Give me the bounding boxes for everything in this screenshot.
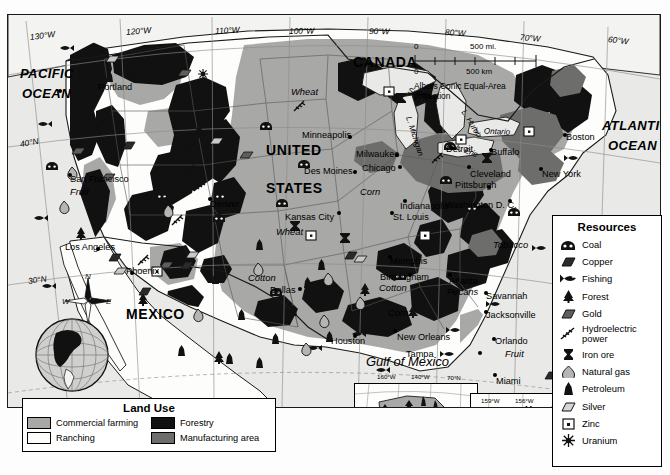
city-dot-pittsburgh (487, 185, 491, 189)
city-dot-boston (563, 133, 567, 137)
graticule-label-3: 100°W (289, 27, 314, 36)
uranium-icon (560, 433, 577, 448)
ocean-label-3: OCEAN (608, 139, 657, 152)
city-label-st-louis: St. Louis (393, 213, 429, 222)
city-label-los-angeles: Los Angeles (65, 243, 115, 252)
landuse-legend-label: Ranching (56, 433, 95, 443)
alaska-lon1: 160°W (377, 373, 396, 380)
city-dot-dallas (298, 287, 302, 291)
city-label-washington-d-c-: Washington D. C. (445, 201, 517, 210)
fishing-icon (560, 271, 577, 286)
city-label-denver: Denver (210, 200, 240, 209)
resource-legend-label: Hydroelectricpower (582, 324, 637, 344)
country-label-states: STATES (266, 181, 323, 195)
crop-label-wheat-0: Wheat (291, 87, 318, 96)
resources-legend-list: CoalCopperFishingForestGoldHydroelectric… (553, 236, 661, 449)
city-label-new-orleans: New Orleans (397, 333, 450, 342)
graticule-label-1: 120°W (126, 26, 152, 37)
alaska-lat1: 70°N (447, 374, 461, 381)
crop-label-wheat-1: Wheat (276, 227, 303, 236)
crop-label-pecans-8: Pecans (447, 287, 478, 296)
graticule-label-7: 60°W (607, 35, 628, 46)
alaska-inset: 160°W 140°W 70°N 60°N Alaska Bering Sea … (354, 383, 478, 408)
landuse-legend-row-manufacturing-area: Manufacturing area (151, 431, 271, 445)
city-label-portland: Portland (98, 83, 132, 92)
landuse-swatch (27, 417, 51, 429)
natural-gas-icon (560, 364, 577, 379)
resource-legend-row-zinc: Zinc (553, 415, 661, 432)
city-label-milwaukee: Milwaukee (356, 150, 399, 159)
city-label-orlando: Orlando (495, 337, 528, 346)
graticule-label-4: 90°W (369, 27, 390, 36)
city-label-jacksonville: Jacksonville (486, 311, 536, 320)
city-dot-buffalo (489, 148, 493, 152)
city-dot-birmingham (408, 273, 412, 277)
resource-legend-row-uranium: Uranium (553, 432, 661, 449)
resource-legend-label: Copper (582, 256, 613, 267)
city-dot-san-francisco (68, 173, 72, 177)
lake-label-1: L. Michigan (404, 116, 424, 157)
silver-icon (560, 399, 577, 414)
iron-ore-icon (560, 347, 577, 362)
city-dot-tampa (478, 351, 482, 355)
hawaii-lon1: 159°W (481, 397, 500, 404)
crop-label-tobacco-9: Tobacco (493, 240, 528, 249)
copper-icon (560, 254, 577, 269)
country-label-united: UNITED (266, 143, 322, 157)
city-dot-st-louis (390, 211, 394, 215)
city-label-tampa: Tampa (406, 350, 434, 359)
city-dot-portland (58, 89, 62, 93)
city-dot-denver (208, 197, 212, 201)
resource-legend-row-iron-ore: Iron ore (553, 346, 661, 363)
zinc-icon (560, 416, 577, 431)
resource-legend-label: Iron ore (582, 349, 614, 360)
city-label-cleveland: Cleveland (470, 170, 511, 179)
resource-legend-label: Natural gas (582, 366, 630, 377)
city-dot-cleveland (467, 165, 471, 169)
landuse-swatch (27, 432, 51, 444)
petroleum-icon (560, 381, 577, 396)
hydroelectric-icon (560, 326, 577, 341)
city-dot-atlanta (448, 273, 452, 277)
resource-legend-row-gold: Gold (553, 305, 661, 322)
city-label-boston: Boston (566, 133, 595, 142)
landuse-swatch (151, 432, 175, 444)
landuse-legend-label: Manufacturing area (180, 433, 259, 443)
resource-legend-row-hydroelectric-power: Hydroelectricpower (553, 322, 661, 346)
ocean-label-1: OCEAN (22, 87, 71, 100)
city-dot-jacksonville (484, 310, 488, 314)
forest-icon (560, 289, 577, 304)
resource-legend-row-natural-gas: Natural gas (553, 363, 661, 380)
city-dot-milwaukee (395, 153, 399, 157)
landuse-legend-list: Commercial farmingForestryRanchingManufa… (23, 416, 275, 445)
city-dot-houston (353, 334, 357, 338)
graticule-label-9: 30°N (27, 274, 47, 285)
resource-legend-row-forest: Forest (553, 288, 661, 305)
ocean-label-0: PACIFIC (20, 67, 74, 80)
city-label-savannah: Savannah (486, 292, 527, 301)
map-screenshot: 0 500 mi. 0 500 km (0, 0, 670, 475)
landuse-legend-label: Forestry (180, 418, 214, 428)
city-label-indianapolis: Indianapolis (400, 202, 449, 211)
gold-icon (560, 306, 577, 321)
resource-legend-label: Silver (582, 401, 605, 412)
city-label-dallas: Dallas (270, 286, 296, 295)
city-dot-new-orleans (393, 329, 397, 333)
city-label-birmingham: Birmingham (380, 273, 429, 282)
resources-legend: Resources CoalCopperFishingForestGoldHyd… (552, 215, 662, 467)
city-label-chicago: Chicago (362, 164, 396, 173)
city-label-memphis: Memphis (390, 257, 427, 266)
crop-label-fruit-6: Fruit (70, 187, 89, 196)
city-dot-miami (493, 373, 497, 377)
coal-icon (560, 237, 577, 252)
landuse-legend: Land Use Commercial farmingForestryRanch… (22, 398, 276, 452)
resource-legend-label: Forest (582, 291, 609, 302)
resource-legend-label: Coal (582, 239, 601, 250)
crop-label-fruit-7: Fruit (505, 349, 524, 358)
alaska-lon2: 140°W (411, 373, 430, 380)
landuse-legend-title: Land Use (23, 399, 275, 416)
city-label-minneapolis: Minneapolis (302, 131, 351, 140)
crop-label-cotton-4: Cotton (248, 273, 276, 282)
resources-legend-title: Resources (553, 216, 661, 236)
city-dot-savannah (484, 291, 488, 295)
